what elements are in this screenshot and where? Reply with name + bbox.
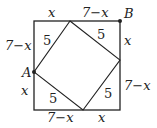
label-top-right: 7−x	[82, 5, 109, 20]
point-b-label: B	[123, 6, 134, 21]
label-right-bottom: 7−x	[124, 78, 151, 93]
square-diagram: A B x 7−x x 7−x x 7−x x 7−x 5 5 5 5	[0, 0, 157, 128]
label-top-left: x	[48, 5, 56, 20]
label-hyp-top-right: 5	[97, 27, 105, 42]
label-left-bottom: x	[21, 83, 29, 98]
point-a-label: A	[21, 65, 31, 80]
label-left-top: 7−x	[5, 38, 32, 53]
label-hyp-bottom-right: 5	[104, 86, 112, 101]
label-right-top: x	[124, 33, 132, 48]
point-a-dot	[32, 70, 36, 74]
label-bottom-right: x	[98, 110, 106, 125]
point-b-dot	[118, 19, 122, 23]
label-bottom-left: 7−x	[47, 110, 74, 125]
label-hyp-bottom-left: 5	[49, 91, 57, 106]
label-hyp-top-left: 5	[43, 33, 51, 48]
